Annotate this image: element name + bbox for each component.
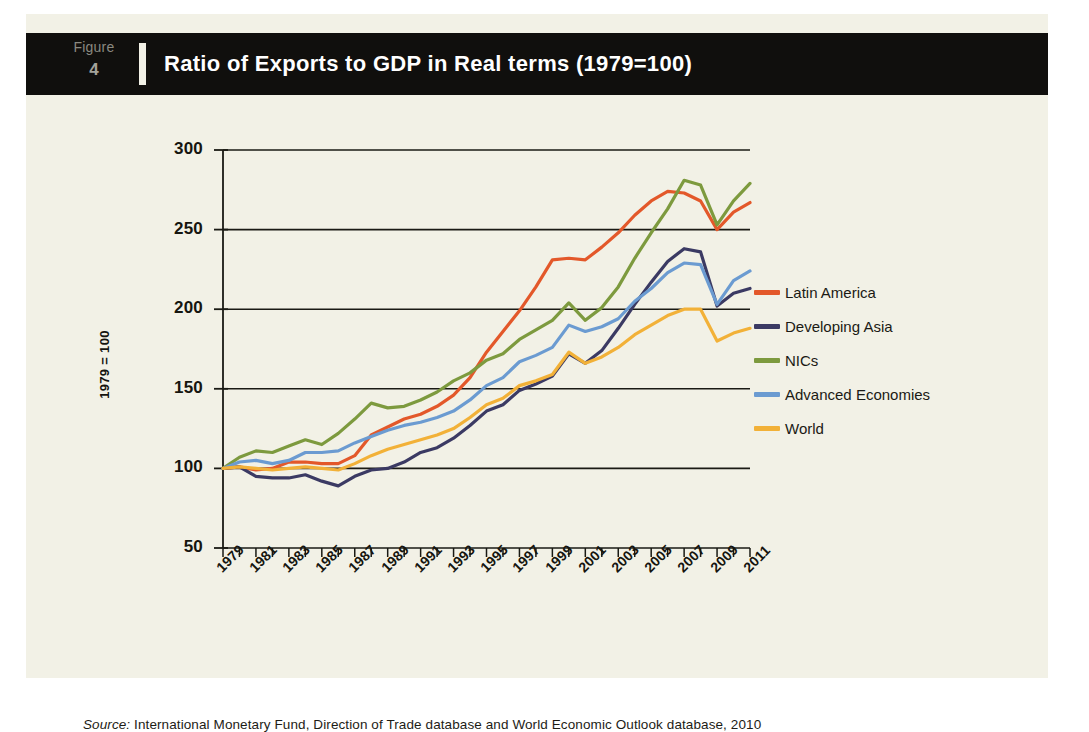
series-line-developing-asia	[223, 249, 750, 486]
series-line-latin-america	[223, 191, 750, 470]
source-prefix: Source:	[83, 717, 130, 732]
y-tick-label: 200	[145, 298, 203, 318]
legend-item-label: World	[785, 420, 824, 437]
legend-item-label: Developing Asia	[785, 318, 893, 335]
y-tick-label: 250	[145, 219, 203, 239]
legend-item-label: Latin America	[785, 284, 876, 301]
source-text: International Monetary Fund, Direction o…	[130, 717, 761, 732]
figure-number-value: 4	[58, 59, 130, 81]
figure-title: Ratio of Exports to GDP in Real terms (1…	[164, 49, 1028, 79]
legend-item[interactable]: World	[754, 411, 930, 445]
legend-item-label: Advanced Economies	[785, 386, 930, 403]
legend-item[interactable]: Developing Asia	[754, 309, 930, 343]
y-tick-label: 300	[145, 139, 203, 159]
figure-header-band: Figure 4 Ratio of Exports to GDP in Real…	[26, 33, 1048, 95]
legend-color-swatch	[754, 324, 780, 329]
header-divider-bar	[139, 43, 146, 85]
legend-color-swatch	[754, 426, 780, 431]
legend-color-swatch	[754, 358, 780, 363]
source-note: Source: International Monetary Fund, Dir…	[83, 717, 761, 732]
legend-color-swatch	[754, 290, 780, 295]
series-line-nics	[223, 180, 750, 468]
y-tick-label: 50	[145, 537, 203, 557]
legend-item-label: NICs	[785, 352, 818, 369]
chart-container: 1979 = 100 50100150200250300 19791981198…	[26, 95, 1048, 678]
legend-item[interactable]: Latin America	[754, 275, 930, 309]
series-line-advanced-economies	[223, 263, 750, 468]
figure-number-block: Figure 4	[58, 39, 130, 89]
figure-label-word: Figure	[58, 39, 130, 55]
y-tick-label: 150	[145, 378, 203, 398]
legend-item[interactable]: Advanced Economies	[754, 377, 930, 411]
legend-color-swatch	[754, 392, 780, 397]
chart-legend: Latin AmericaDeveloping AsiaNICsAdvanced…	[754, 275, 930, 445]
y-tick-label: 100	[145, 457, 203, 477]
legend-item[interactable]: NICs	[754, 343, 930, 377]
